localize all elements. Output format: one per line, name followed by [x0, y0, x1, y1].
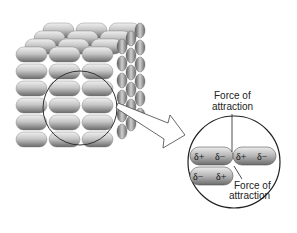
force-label-bottom: attraction — [229, 190, 270, 201]
lattice-molecule — [117, 124, 127, 139]
lattice-molecule — [49, 115, 80, 130]
diagram-canvas: δ+ δ− δ+ δ− δ− δ+ Force of attraction Fo… — [0, 0, 297, 233]
lattice-molecule — [126, 82, 136, 97]
force-label-top: Force of — [214, 90, 251, 101]
lattice-molecule — [135, 57, 145, 72]
lattice-molecule — [135, 91, 145, 106]
lattice-molecule — [16, 98, 47, 113]
lattice-molecule — [82, 115, 113, 130]
partial-charge-label: δ+ — [216, 171, 227, 182]
lattice-molecule — [117, 73, 127, 88]
lattice-molecule — [126, 31, 136, 46]
partial-charge-label: δ− — [257, 151, 268, 162]
lattice-molecule — [82, 47, 113, 62]
molecule-3: δ− δ+ — [190, 167, 233, 185]
lattice-molecule — [16, 115, 47, 130]
lattice-molecule — [49, 81, 80, 96]
lattice-molecule — [49, 98, 80, 113]
molecule-1: δ+ δ− — [190, 147, 233, 165]
lattice-molecule — [49, 47, 80, 62]
partial-charge-label: δ− — [215, 151, 226, 162]
lattice-molecule — [135, 23, 145, 38]
lattice-molecule — [82, 81, 113, 96]
lattice-molecule — [82, 98, 113, 113]
molecule-2: δ+ δ− — [233, 147, 276, 165]
lattice-molecule — [16, 132, 47, 147]
lattice-molecule — [16, 81, 47, 96]
lattice-molecule — [16, 47, 47, 62]
lattice-molecule — [126, 65, 136, 80]
molecular-lattice — [16, 23, 145, 147]
force-label-top: attraction — [212, 101, 253, 112]
lattice-molecule — [117, 56, 127, 71]
partial-charge-label: δ+ — [194, 151, 205, 162]
lattice-molecule — [117, 90, 127, 105]
lattice-molecule — [135, 74, 145, 89]
partial-charge-label: δ− — [193, 171, 204, 182]
partial-charge-label: δ+ — [236, 151, 247, 162]
lattice-molecule — [16, 64, 47, 79]
lattice-molecule — [117, 39, 127, 54]
lattice-molecule — [126, 48, 136, 63]
lattice-molecule — [135, 40, 145, 55]
